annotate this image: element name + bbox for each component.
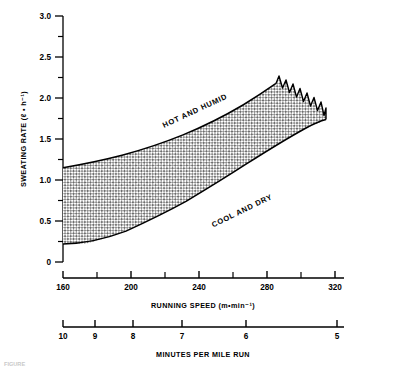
sweating-rate-chart: 3.0 2.5 2.0 1.5 1.0 0.5 0 SWEATING RATE … — [0, 0, 396, 367]
x-tick-label: 200 — [124, 283, 138, 292]
y-tick-label: 2.5 — [40, 53, 52, 62]
figure-caption: FIGURE — [4, 361, 25, 367]
y-tick-label: 2.0 — [40, 94, 52, 103]
x-tick-label: 240 — [192, 283, 206, 292]
x-tick-label: 320 — [328, 283, 342, 292]
x-axis2-title: MINUTES PER MILE RUN — [156, 350, 250, 359]
y-tick-label: 1.5 — [40, 135, 52, 144]
x-tick-label: 160 — [56, 283, 70, 292]
x2-tick-label: 8 — [131, 332, 136, 341]
x2-tick-label: 10 — [58, 332, 68, 341]
y-axis-title: SWEATING RATE (ℓ • h⁻¹) — [19, 91, 28, 187]
y-tick-label: 1.0 — [40, 176, 52, 185]
x-axis-title: RUNNING SPEED (m•min⁻¹) — [151, 301, 255, 310]
y-tick-label: 0 — [46, 258, 51, 267]
y-tick-label: 0.5 — [40, 217, 52, 226]
x2-tick-label: 9 — [93, 332, 98, 341]
x2-tick-label: 5 — [335, 332, 340, 341]
x2-tick-label: 7 — [180, 332, 185, 341]
y-tick-label: 3.0 — [40, 12, 52, 21]
x2-tick-label: 6 — [244, 332, 249, 341]
x-tick-label: 280 — [260, 283, 274, 292]
